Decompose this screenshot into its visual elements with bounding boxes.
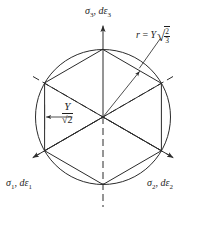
radical-two-thirds: √23 — [156, 27, 170, 45]
radius-leader-line — [103, 72, 140, 118]
sigma-3-axis-label: σ3, dε3 — [85, 6, 111, 19]
apothem-denominator: √2 — [62, 114, 73, 125]
mises-radius-label: r = Y√23 — [136, 27, 170, 45]
sigma-2-axis-label: σ2, dε2 — [147, 178, 173, 191]
apothem-fraction: Y√2 — [62, 101, 73, 125]
strain-1-subscript: 1 — [28, 183, 32, 191]
tresca-apothem-label: Y√2 — [62, 101, 73, 125]
radical-denominator: 3 — [164, 37, 170, 45]
figure-canvas — [0, 0, 214, 226]
strain-3-subscript: 3 — [107, 11, 111, 19]
radius-equals: = — [140, 29, 151, 40]
sigma-1-axis-label: σ1, dε1 — [6, 178, 32, 191]
pi-plane-figure: σ3, dε3 σ1, dε1 σ2, dε2 r = Y√23 Y√2 — [0, 0, 214, 226]
apothem-numerator: Y — [62, 101, 73, 114]
strain-2-subscript: 2 — [169, 183, 173, 191]
radical-fraction: 23 — [164, 26, 170, 44]
